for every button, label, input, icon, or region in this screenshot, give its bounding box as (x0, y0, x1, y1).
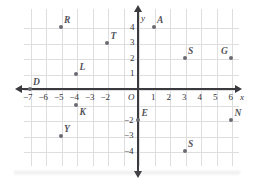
point-label: S (188, 140, 193, 150)
data-point (229, 56, 233, 60)
plotted-points: RTLDKYASGENS (0, 0, 254, 182)
data-point (183, 56, 187, 60)
point-label: D (33, 78, 40, 88)
data-point (59, 134, 63, 138)
point-label: T (111, 32, 117, 42)
data-point (74, 72, 78, 76)
coordinate-plane-figure: −7−6−5−4−3−2123456O4321−2−3−4xy RTLDKYAS… (0, 0, 254, 182)
data-point (105, 41, 109, 45)
data-point (59, 25, 63, 29)
point-label: K (80, 108, 86, 118)
point-label: G (221, 47, 228, 57)
data-point (152, 25, 156, 29)
data-point (28, 87, 32, 91)
data-point (183, 149, 187, 153)
page-shadow (14, 171, 240, 176)
data-point (74, 103, 78, 107)
point-label: S (188, 47, 193, 57)
point-label: E (142, 109, 148, 119)
point-label: Y (64, 125, 70, 135)
point-label: N (235, 109, 242, 119)
point-label: A (157, 16, 163, 26)
data-point (136, 118, 140, 122)
point-label: R (64, 16, 70, 26)
point-label: L (80, 63, 86, 73)
plane-area: −7−6−5−4−3−2123456O4321−2−3−4xy RTLDKYAS… (0, 0, 254, 182)
data-point (229, 118, 233, 122)
